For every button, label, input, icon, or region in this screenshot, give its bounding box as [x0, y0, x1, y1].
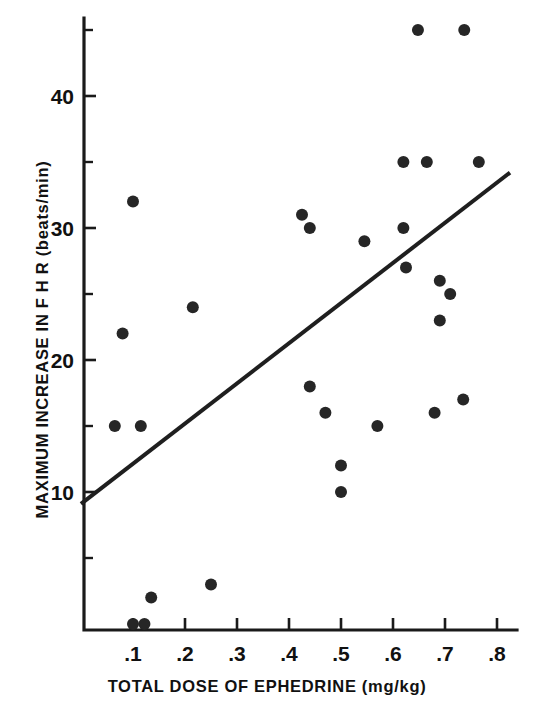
data-point: [335, 460, 347, 472]
x-tick-label: .8: [488, 642, 506, 665]
x-tick-label: .7: [436, 642, 454, 665]
data-point: [109, 420, 121, 432]
axis-frame: [84, 18, 517, 630]
data-point: [429, 407, 441, 419]
data-point: [397, 156, 409, 168]
data-point: [296, 209, 308, 221]
x-tick-label: .5: [332, 642, 350, 665]
data-point: [145, 592, 157, 604]
x-axis-title: TOTAL DOSE OF EPHEDRINE (mg/kg): [0, 677, 534, 696]
data-point: [421, 156, 433, 168]
y-axis-title: MAXIMUM INCREASE IN F H R (beats/min): [33, 40, 52, 640]
data-point: [358, 235, 370, 247]
x-axis-tick-labels: .1.2.3.4.5.6.7.8: [124, 642, 506, 665]
data-point: [319, 407, 331, 419]
x-tick-label: .6: [384, 642, 402, 665]
y-tick-label: 20: [51, 349, 74, 372]
data-point: [117, 328, 129, 340]
y-tick-label: 10: [51, 481, 74, 504]
data-point: [187, 301, 199, 313]
x-tick-label: .3: [228, 642, 246, 665]
y-axis-ticks: [84, 30, 96, 558]
x-tick-label: .4: [280, 642, 298, 665]
data-point: [444, 288, 456, 300]
data-point: [412, 24, 424, 36]
x-tick-label: .1: [124, 642, 142, 665]
y-axis-tick-labels: 10203040: [51, 85, 74, 504]
data-point: [205, 578, 217, 590]
x-tick-label: .2: [176, 642, 194, 665]
regression-line: [81, 173, 510, 504]
y-tick-label: 40: [51, 85, 74, 108]
data-point: [434, 314, 446, 326]
axis-group: [84, 18, 517, 630]
data-point: [400, 262, 412, 274]
data-point: [127, 618, 139, 630]
data-point: [434, 275, 446, 287]
y-tick-label: 30: [51, 217, 74, 240]
scatter-plot-figure: 10203040 .1.2.3.4.5.6.7.8 TOTAL DOSE OF …: [0, 0, 534, 712]
data-point: [135, 420, 147, 432]
data-point: [127, 196, 139, 208]
data-point: [458, 24, 470, 36]
x-axis-ticks: [133, 618, 497, 630]
data-point: [335, 486, 347, 498]
data-point: [371, 420, 383, 432]
data-point: [304, 222, 316, 234]
data-point: [457, 394, 469, 406]
plot-canvas: 10203040 .1.2.3.4.5.6.7.8: [0, 0, 534, 712]
data-point: [473, 156, 485, 168]
data-point: [304, 380, 316, 392]
regression-line-segment: [81, 173, 510, 504]
data-point: [138, 618, 150, 630]
data-points: [109, 24, 485, 630]
data-point: [397, 222, 409, 234]
